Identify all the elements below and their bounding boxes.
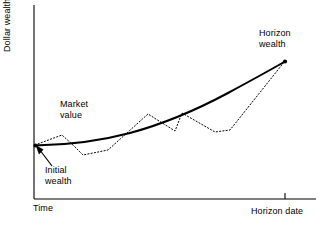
- horizon-wealth-point: [283, 59, 287, 63]
- annotation-market-value: Market value: [60, 99, 88, 121]
- x-axis-origin-label: Time: [33, 203, 53, 214]
- annotation-initial-wealth: Initial wealth: [45, 165, 72, 187]
- chart-figure: Dollar wealth Market value Initial wealt…: [0, 0, 324, 230]
- x-axis-end-label: Horizon date: [251, 206, 303, 217]
- annotation-horizon-wealth: Horizon wealth: [259, 28, 291, 50]
- y-axis-label: Dollar wealth: [2, 0, 12, 52]
- initial-wealth-arrow: [36, 145, 53, 166]
